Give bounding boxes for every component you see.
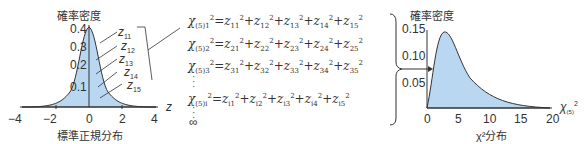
- axis-var-z: z: [166, 100, 172, 114]
- x-tick-15: 15: [514, 112, 527, 126]
- y-tick-0.1: 0.1: [70, 80, 87, 94]
- x-tick-10: 10: [483, 112, 496, 126]
- x-tick-0: 0: [424, 112, 431, 126]
- x-tick-neg2: −2: [43, 112, 57, 126]
- y-tick-0.15: 0.15: [402, 22, 425, 36]
- y-tick-0.4: 0.4: [70, 22, 87, 36]
- y-tick-0.3: 0.3: [70, 40, 87, 54]
- x-tick-neg4: −4: [8, 112, 22, 126]
- y-tick-0.05: 0.05: [402, 76, 425, 90]
- x-tick-2: 2: [119, 112, 126, 126]
- y-tick-0.2: 0.2: [70, 58, 87, 72]
- x-tick-4: 4: [151, 112, 158, 126]
- equation-row-1: χ(5)12=z112+z122+z132+z142+z152: [188, 11, 363, 33]
- y-tick-0.10: 0.10: [402, 49, 425, 63]
- x-tick-0: 0: [86, 112, 93, 126]
- equation-row-2: χ(5)22=z212+z222+z232+z242+z252: [188, 34, 363, 56]
- infinity-symbol: ∞: [189, 115, 198, 129]
- left-chart-xlabel: 標準正規分布: [57, 127, 123, 143]
- x-tick-5: 5: [455, 112, 462, 126]
- vertical-ellipsis-1: ···: [192, 74, 195, 89]
- right-chart-xlabel: χ²分布: [476, 127, 507, 143]
- axis-var-chi: χ(5)2: [560, 100, 578, 115]
- x-tick-20: 20: [546, 112, 559, 126]
- sample-label-z15: z15: [127, 78, 141, 93]
- equation-row-3: χ(5)32=z312+z322+z332+z342+z352: [188, 56, 363, 78]
- equation-row-i: χ(5)i2=zi12+zi22+zi32+zi42+zi52: [188, 89, 350, 111]
